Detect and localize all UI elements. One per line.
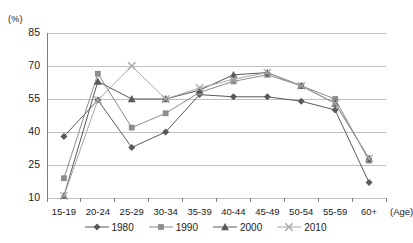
data-point-diamond [93, 224, 100, 231]
y-axis-tick-label: 85 [14, 26, 40, 38]
data-point-square [158, 224, 164, 230]
data-point-square [163, 110, 169, 116]
y-axis-tick-label: 70 [14, 59, 40, 71]
data-series-layer [60, 62, 373, 199]
legend-item-1990[interactable]: 1990 [148, 221, 198, 233]
data-point-diamond [366, 179, 373, 186]
legend-item-2000[interactable]: 2000 [212, 221, 262, 233]
data-point-square [95, 71, 101, 77]
data-point-square [129, 125, 135, 131]
legend-label: 1980 [112, 222, 134, 233]
legend-label: 1990 [176, 222, 198, 233]
y-axis-tick-label: 10 [14, 191, 40, 203]
y-axis-tick-label: 55 [14, 92, 40, 104]
legend-item-2010[interactable]: 2010 [276, 221, 326, 233]
legend-label: 2000 [240, 222, 262, 233]
legend-marker-triangle-icon [212, 221, 238, 233]
series-line [64, 74, 369, 179]
legend-marker-diamond-icon [84, 221, 110, 233]
y-axis-tick-label: 40 [14, 125, 40, 137]
legend-item-1980[interactable]: 1980 [84, 221, 134, 233]
x-axis-title: (Age) [390, 206, 413, 217]
gridlines [47, 33, 386, 198]
series-line [64, 73, 369, 196]
legend-marker-square-icon [148, 221, 174, 233]
chart-legend: 1980199020002010 [0, 221, 410, 233]
series-line [64, 66, 369, 196]
data-point-diamond [128, 144, 135, 151]
series-line [64, 95, 369, 183]
x-axis-tick-label: 60+ [346, 206, 392, 217]
data-point-square [61, 175, 67, 181]
legend-marker-cross-icon [276, 221, 302, 233]
y-axis-tick-label: 25 [14, 158, 40, 170]
legend-label: 2010 [304, 222, 326, 233]
x-axis-ticks [47, 198, 386, 202]
series-1980 [60, 91, 372, 186]
